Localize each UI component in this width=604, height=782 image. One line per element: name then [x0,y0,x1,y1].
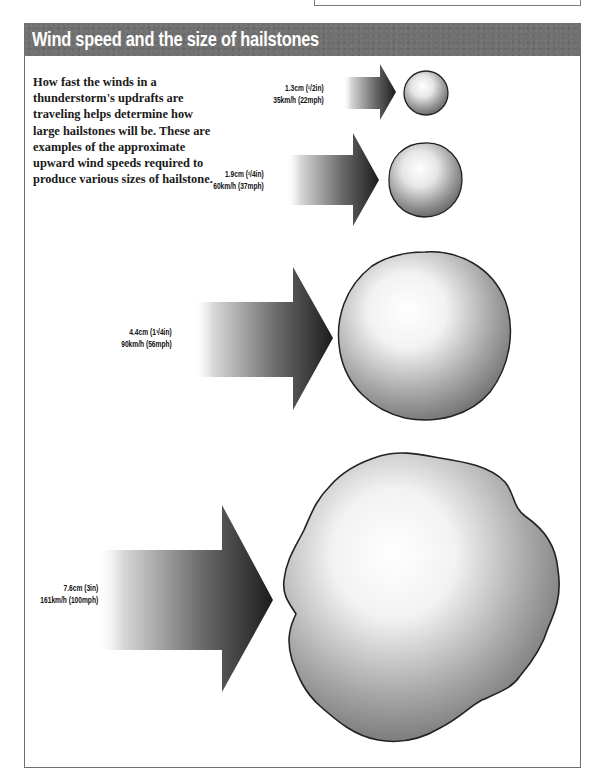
header-bar: Wind speed and the size of hailstones [25,24,580,56]
speed-text: 90km/h (56mph) [122,338,172,350]
intro-text: How fast the winds in a thunderstorm's u… [33,74,213,187]
size-text: 1.9cm (³/4in) [214,168,264,180]
size-text: 4.4cm (1³/4in) [122,326,172,338]
speed-text: 60km/h (37mph) [214,180,264,192]
hailstone-label-1: 1.3cm (¹/2in) 35km/h (22mph) [274,82,324,106]
size-text: 1.3cm (¹/2in) [274,82,324,94]
hailstone-label-3: 4.4cm (1³/4in) 90km/h (56mph) [122,326,172,350]
hailstone-label-4: 7.6cm (3in) 161km/h (100mph) [40,582,98,606]
speed-text: 35km/h (22mph) [274,94,324,106]
previous-panel-edge [314,0,581,6]
panel-title: Wind speed and the size of hailstones [32,27,319,51]
size-text: 7.6cm (3in) [40,582,98,594]
speed-text: 161km/h (100mph) [40,594,98,606]
hailstone-label-2: 1.9cm (³/4in) 60km/h (37mph) [214,168,264,192]
